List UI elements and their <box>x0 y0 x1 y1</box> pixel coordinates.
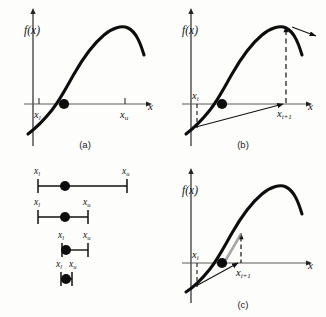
interval-row-1-left-label: xl <box>33 166 40 177</box>
panel-a-x-axis-label: x <box>147 100 153 112</box>
panel-a-root-point <box>59 99 69 109</box>
panel-a-upper-bound-label: xu <box>119 109 129 122</box>
panel-a-caption: (a) <box>79 139 91 150</box>
panel-b-secant-arrow <box>196 104 283 127</box>
interval-row-1-root-point <box>60 181 70 191</box>
panel-c-x-axis-label: x <box>307 259 313 271</box>
panel-a-y-axis-arrow-icon <box>30 8 35 14</box>
interval-row: xl xu <box>33 166 130 193</box>
interval-row-3-root-point <box>61 245 71 255</box>
panel-c-caption: (c) <box>237 299 248 310</box>
panel-c: f(x) x xi xi+1 (c) <box>182 168 313 310</box>
panel-b-xnext-label: xi+1 <box>276 108 292 121</box>
panel-b-xi-label: xi <box>191 90 199 103</box>
interval-row-4-root-point <box>61 274 71 284</box>
panel-c-root-point <box>217 258 227 268</box>
panel-c-secant-arrow <box>196 263 238 286</box>
interval-row-3-left-label: xl <box>57 230 64 241</box>
panel-b-root-point <box>217 99 227 109</box>
panel-a: f(x) x xl xu (a) <box>24 8 153 150</box>
interval-row: xl xu <box>55 259 77 286</box>
panel-b-x-axis-label: x <box>307 100 313 112</box>
interval-row-2-root-point <box>60 212 70 222</box>
panel-a-y-axis-label: f(x) <box>24 24 40 37</box>
interval-row-2-left-label: xl <box>33 197 40 208</box>
panel-c-xnext-label: xi+1 <box>235 267 251 280</box>
panel-c-y-axis-arrow-icon <box>188 168 193 174</box>
interval-row-3-right-label: xu <box>82 230 91 241</box>
panel-a-lower-bound-label: xl <box>33 109 41 122</box>
interval-row: xl xu <box>33 197 91 224</box>
interval-row-1-right-label: xu <box>121 166 130 177</box>
panel-b-caption: (b) <box>237 139 249 150</box>
panel-b: f(x) x xi xi+1 (b) <box>182 8 316 150</box>
interval-row-2-right-label: xu <box>82 197 91 208</box>
panel-b-tangent-arrow <box>292 27 316 36</box>
panel-b-y-axis-arrow-icon <box>188 8 193 14</box>
panel-c-xi-label: xi <box>191 249 199 262</box>
root-finding-figure: f(x) x xl xu (a) <box>0 0 326 317</box>
interval-diagram: xl xu xl xu <box>33 166 130 286</box>
panel-b-y-axis-label: f(x) <box>182 24 198 37</box>
panel-c-tangent-segment <box>224 234 241 263</box>
interval-row-4-right-label: xu <box>68 259 77 270</box>
interval-row-4-left-label: xl <box>55 259 62 270</box>
interval-row: xl xu <box>57 230 91 257</box>
panel-c-y-axis-label: f(x) <box>182 184 198 197</box>
figure-root: f(x) x xl xu (a) <box>0 0 326 317</box>
